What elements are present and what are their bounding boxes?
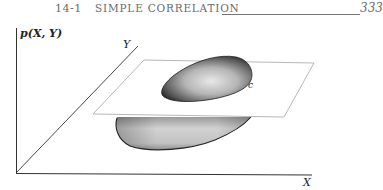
x-axis xyxy=(16,174,312,176)
lower-surface xyxy=(116,117,251,150)
contour-label: c xyxy=(248,80,253,90)
y-axis-label: Y xyxy=(123,38,130,51)
x-axis-label: X xyxy=(303,176,311,189)
vertical-axis-label: p(X, Y) xyxy=(20,27,62,40)
